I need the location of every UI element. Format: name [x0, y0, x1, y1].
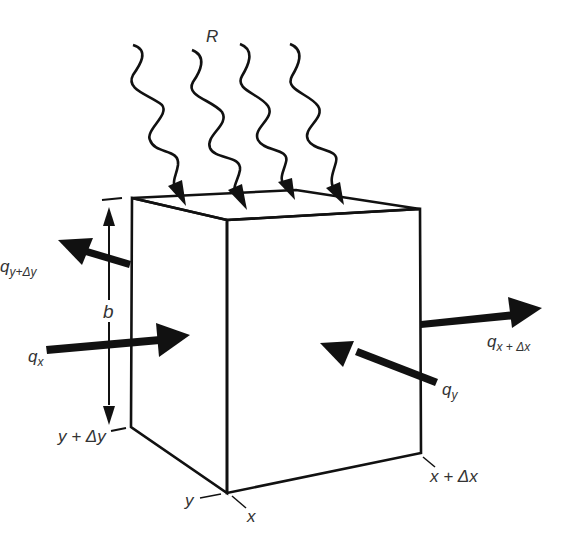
flux-qy-plus-dy-arrow [58, 238, 131, 268]
radiation-arrow-4 [290, 44, 336, 194]
label-R: R [206, 28, 218, 45]
radiation-arrow-1 [131, 45, 178, 192]
corner-ticks [200, 457, 435, 508]
label-q-y-plus-dy-sub: y+Δy [9, 265, 36, 279]
label-y: y [185, 492, 194, 509]
radiation-arrows [131, 44, 336, 196]
cube-diagram [0, 0, 573, 543]
label-q-y: qy [442, 381, 457, 401]
radiation-arrow-2 [192, 50, 241, 196]
radiation-arrow-3 [240, 44, 286, 188]
flux-qx-plus-dx-arrow [421, 297, 542, 328]
flux-arrows [46, 238, 542, 386]
label-b: b [103, 302, 114, 321]
cube-front-face [227, 209, 421, 493]
label-q-x-plus-dx: qx + Δx [487, 333, 530, 353]
cube-top-face [132, 190, 420, 220]
label-q-y-sub: y [451, 388, 457, 402]
label-q-x-sub: x [37, 355, 43, 369]
label-q-y-plus-dy: qy+Δy [0, 258, 37, 278]
label-x: x [247, 508, 256, 525]
label-x-plus-dx: x + Δx [430, 468, 478, 485]
label-q-x-plus-dx-sub: x + Δx [496, 340, 530, 354]
cube-left-face [131, 198, 227, 493]
label-q-x: qx [28, 348, 43, 368]
flux-qx-arrow [46, 323, 190, 357]
label-y-plus-dy: y + Δy [58, 428, 106, 445]
